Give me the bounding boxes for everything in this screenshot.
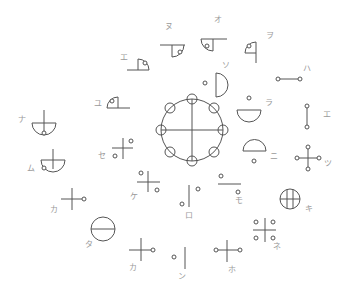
- symbol-label: カ: [129, 263, 137, 272]
- symbol-label: ロ: [185, 211, 193, 220]
- symbol-diagram: ヌオヲエユソハラエニツナムセケカタカンロモホキネ: [0, 0, 349, 295]
- node-dot: [42, 166, 46, 170]
- node-dot: [295, 156, 299, 160]
- symbol-label: ホ: [228, 265, 236, 274]
- node-dot: [276, 77, 280, 81]
- node-dot: [306, 167, 310, 171]
- symbol-label: ケ: [130, 192, 138, 201]
- node-dot: [254, 236, 258, 240]
- symbol-label: ニ: [270, 152, 278, 161]
- node-dot: [205, 44, 209, 48]
- node-dot: [203, 81, 207, 85]
- node-dot: [271, 236, 275, 240]
- symbol-label: タ: [85, 240, 93, 249]
- node-dot: [42, 131, 46, 135]
- node-dot: [271, 220, 275, 224]
- node-dot: [298, 77, 302, 81]
- node-dot: [172, 255, 176, 259]
- node-dot: [143, 61, 147, 65]
- symbol-label: モ: [235, 196, 243, 205]
- node-dot: [82, 197, 86, 201]
- node-dot: [305, 104, 309, 108]
- node-dot: [180, 202, 184, 206]
- symbol-label: ソ: [222, 61, 230, 70]
- node-dot: [236, 190, 240, 194]
- node-dot: [305, 125, 309, 129]
- symbol-label: ネ: [273, 242, 281, 251]
- node-dot: [247, 96, 251, 100]
- node-dot: [178, 50, 182, 54]
- symbol-label: ヌ: [165, 22, 173, 31]
- symbol-label: セ: [98, 151, 106, 160]
- symbol-label: ナ: [18, 115, 26, 124]
- node-dot: [214, 248, 218, 252]
- node-dot: [306, 145, 310, 149]
- node-dot: [151, 248, 155, 252]
- node-dot: [252, 159, 256, 163]
- symbol-label: カ: [50, 205, 58, 214]
- symbol-label: ン: [178, 272, 186, 281]
- symbol-label: ツ: [324, 159, 332, 168]
- node-dot: [110, 99, 114, 103]
- symbol-label: ハ: [303, 64, 311, 73]
- node-dot: [155, 188, 159, 192]
- symbol-label: ユ: [94, 99, 102, 108]
- center-wheel: [156, 94, 228, 166]
- node-dot: [247, 44, 251, 48]
- node-dot: [139, 171, 143, 175]
- symbol-label: エ: [120, 53, 128, 62]
- symbol-label: ム: [27, 164, 35, 173]
- node-dot: [254, 220, 258, 224]
- node-dot: [196, 187, 200, 191]
- symbol-label: ヲ: [266, 31, 274, 40]
- node-dot: [129, 139, 133, 143]
- node-dot: [219, 174, 223, 178]
- background: [0, 0, 349, 295]
- symbol-label: キ: [305, 204, 313, 213]
- node-dot: [238, 248, 242, 252]
- symbol-label: オ: [214, 15, 222, 24]
- symbol-label: エ: [323, 110, 331, 119]
- symbol-label: ラ: [265, 98, 273, 107]
- node-dot: [317, 156, 321, 160]
- node-dot: [113, 154, 117, 158]
